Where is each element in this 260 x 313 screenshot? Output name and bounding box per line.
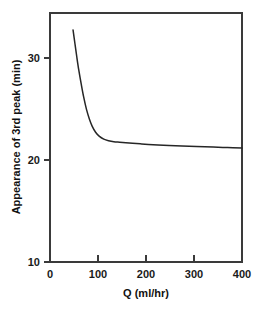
y-tick-label-20: 20 [28, 154, 40, 166]
x-axis-label: Q (ml/hr) [123, 287, 169, 299]
line-chart: 10 20 30 0 100 200 300 400 Q (ml/hr) App… [0, 0, 260, 313]
y-axis-ticks [44, 58, 50, 262]
chart-figure: 10 20 30 0 100 200 300 400 Q (ml/hr) App… [0, 0, 260, 313]
x-tick-label-100: 100 [89, 268, 107, 280]
x-tick-label-400: 400 [233, 268, 251, 280]
y-tick-label-30: 30 [28, 52, 40, 64]
x-tick-label-0: 0 [47, 268, 53, 280]
y-axis-tick-labels: 10 20 30 [28, 52, 40, 268]
y-tick-label-10: 10 [28, 256, 40, 268]
x-axis-ticks [50, 255, 242, 262]
x-tick-label-300: 300 [185, 268, 203, 280]
data-curve-appearance-of-3rd-peak [73, 30, 242, 148]
x-tick-label-200: 200 [137, 268, 155, 280]
x-axis-tick-labels: 0 100 200 300 400 [47, 268, 251, 280]
y-axis-label: Appearance of 3rd peak (min) [10, 59, 22, 214]
plot-frame [50, 13, 242, 262]
